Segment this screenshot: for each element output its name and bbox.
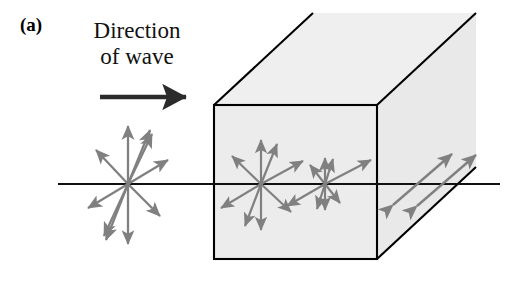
cube-front-face: [214, 105, 377, 259]
caption-line-2: of wave: [62, 44, 212, 70]
direction-of-wave-caption: Direction of wave: [62, 18, 212, 70]
caption-line-1: Direction: [62, 18, 212, 44]
polarization-diagram: (a) Direction of wave: [0, 0, 530, 283]
panel-label: (a): [20, 14, 42, 36]
starburst-unpolarized-incident: [88, 126, 168, 244]
medium-cube: [214, 13, 476, 259]
